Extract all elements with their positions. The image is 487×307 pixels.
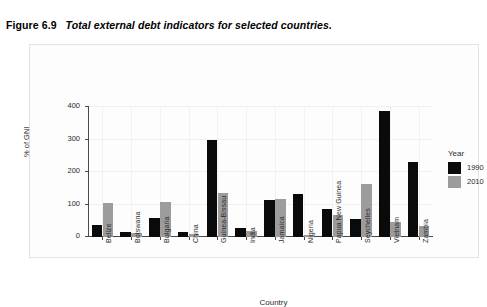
bar-vietnam-1990 [379,111,390,237]
bar-jamaica-1990 [264,200,275,237]
y-axis-tick-label: 0 [56,232,80,240]
y-axis-tick-label: 300 [56,135,80,143]
bar-seychelles-1990 [350,219,361,237]
chart-legend: Year 19902010 [448,149,487,189]
chart-panel: 0100200300400 % of GNI BelizeBotswanaBul… [29,44,479,258]
x-axis-tick-label: Guinea-Bissau [220,196,227,243]
bar-belize-1990 [92,225,103,237]
bar-nigeria-1990 [293,194,304,237]
x-axis-tick-mark [419,237,420,240]
x-axis-tick-label: China [192,224,199,243]
x-axis-tick-mark [275,237,276,240]
x-axis-tick-mark [160,237,161,240]
legend-swatch [448,162,461,174]
x-axis-tick-mark [304,237,305,240]
bar-guinea-bissau-1990 [207,140,218,238]
bar-papua-new-guinea-1990 [322,209,333,237]
bar-botswana-1990 [120,232,131,237]
x-axis-tick-label: Belize [105,223,112,243]
x-axis-tick-mark [361,237,362,240]
figure-number: Figure 6.9 [6,19,57,31]
x-axis-label: Country [30,298,487,307]
x-axis-tick-mark [217,237,218,240]
figure-caption: Figure 6.9Total external debt indicators… [6,19,332,32]
x-axis-tick-label: Botswana [134,211,141,243]
x-axis-tick-mark [246,237,247,240]
legend-entries: 19902010 [448,161,487,188]
x-axis-tick-mark [332,237,333,240]
legend-label: 1990 [467,163,484,172]
bar-india-1990 [235,228,246,237]
bar-zambia-1990 [408,162,419,237]
bar-china-1990 [178,232,189,237]
y-axis-tick-label: 400 [56,102,80,110]
y-axis-tick-label: 200 [56,167,80,175]
x-axis-tick-label: Papua New Guinea [335,181,342,243]
x-axis-tick-label: Zambia [422,219,429,243]
x-axis-tick-mark [189,237,190,240]
legend-title: Year [448,149,487,158]
y-axis-label: % of GNI [22,127,31,157]
x-axis-tick-label: Jamaica [278,216,285,243]
x-axis-tick-label: Bulgaria [163,217,170,243]
legend-item-1990: 1990 [448,161,487,174]
x-axis-tick-label: Seychelles [364,208,371,243]
x-axis-tick-label: Vietnam [393,217,400,243]
x-axis-tick-mark [131,237,132,240]
x-axis-tick-label: India [249,227,256,243]
y-axis-tick-label: 100 [56,200,80,208]
x-axis-tick-label: Nigeria [307,220,314,243]
legend-item-2010: 2010 [448,175,487,188]
x-axis-tick-mark [390,237,391,240]
bar-bulgaria-1990 [149,218,160,237]
x-axis-tick-mark [102,237,103,240]
figure-title: Total external debt indicators for selec… [66,19,332,31]
legend-swatch [448,176,461,188]
legend-label: 2010 [467,177,484,186]
